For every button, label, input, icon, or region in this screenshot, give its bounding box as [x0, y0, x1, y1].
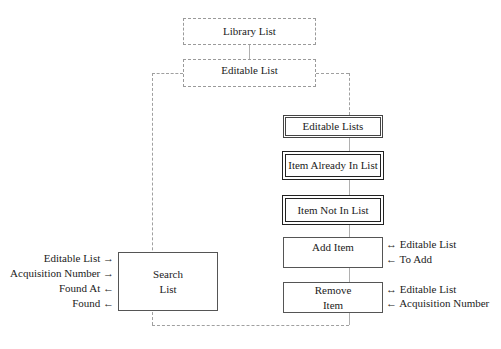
item-not-in-list-node: Item Not In List: [282, 195, 384, 225]
search-param-acquisition-number: Acquisition Number →: [10, 266, 114, 281]
item-not-in-list-label: Item Not In List: [297, 203, 368, 218]
search-list-node: Search List: [118, 252, 218, 311]
search-param-editable-list: Editable List →: [44, 251, 114, 266]
search-param-found: Found ←: [72, 296, 114, 311]
add-item-label: Add Item: [312, 240, 354, 255]
arrow-both-icon: ↔: [386, 238, 397, 250]
editable-lists-node: Editable Lists: [283, 115, 383, 138]
editable-list-node: Editable List: [183, 59, 316, 87]
add-param-to-add: ← To Add: [386, 252, 432, 267]
arrow-right-icon: →: [103, 267, 114, 279]
connector-bottom-horizontal: [152, 325, 349, 326]
connector-right-horizontal: [316, 73, 349, 74]
arrow-left-icon: ←: [103, 282, 114, 294]
remove-item-label-line2: Item: [323, 298, 343, 313]
connector-left-horizontal: [152, 73, 183, 74]
remove-param-acquisition-number: ← Acquisition Number: [386, 296, 489, 311]
arrow-left-icon: ←: [386, 297, 397, 309]
editable-list-label: Editable List: [221, 63, 278, 78]
library-list-node: Library List: [183, 18, 316, 45]
add-param-editable-list: ↔ Editable List: [386, 237, 456, 252]
library-list-label: Library List: [223, 24, 276, 39]
search-list-label-line1: Search: [153, 267, 183, 282]
item-already-in-list-node: Item Already In List: [282, 151, 384, 180]
arrow-right-icon: →: [103, 252, 114, 264]
search-param-found-at: Found At ←: [59, 281, 114, 296]
editable-lists-label: Editable Lists: [303, 119, 364, 134]
remove-param-editable-list: ↔ Editable List: [386, 282, 456, 297]
arrow-left-icon: ←: [386, 253, 397, 265]
arrow-both-icon: ↔: [386, 283, 397, 295]
search-list-label-line2: List: [159, 282, 176, 297]
add-item-node: Add Item: [283, 237, 383, 268]
remove-item-label-line1: Remove: [315, 283, 352, 298]
item-already-in-list-label: Item Already In List: [288, 158, 378, 173]
connector-right-vertical: [349, 73, 350, 115]
arrow-left-icon: ←: [103, 297, 114, 309]
remove-item-node: Remove Item: [283, 282, 383, 313]
connector-library-to-editable: [249, 45, 250, 59]
